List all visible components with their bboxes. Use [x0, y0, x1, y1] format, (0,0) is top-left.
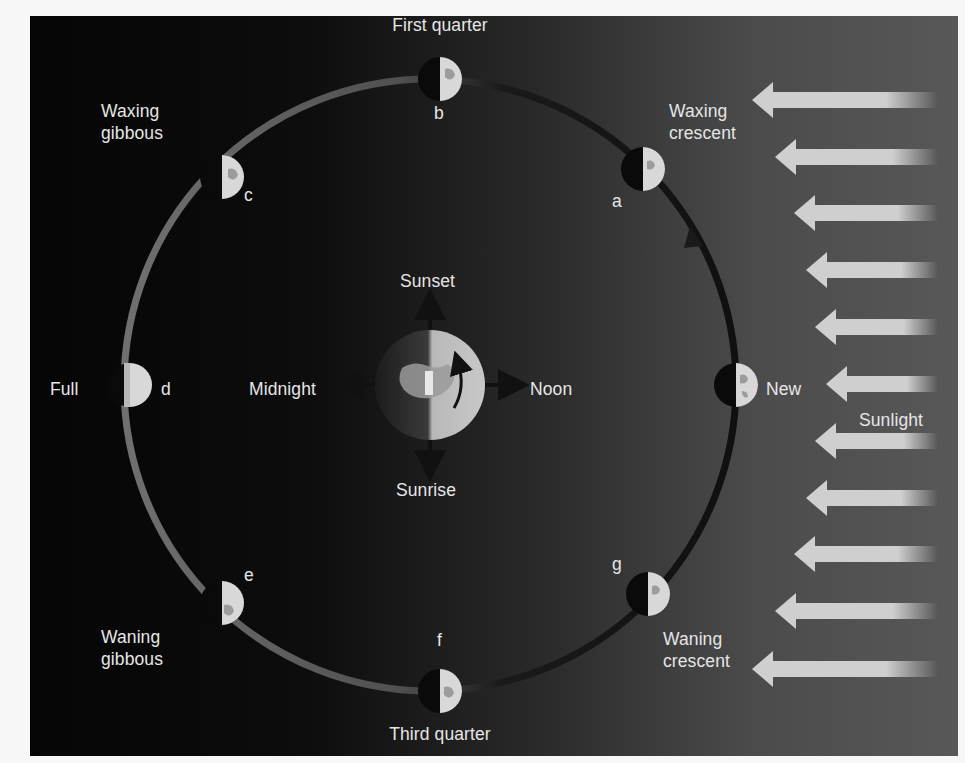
sunlight-arrow-icon — [775, 593, 938, 629]
moon-full-icon — [108, 363, 152, 407]
moon-third-quarter-icon — [418, 669, 462, 713]
sunlight-arrow-icon — [815, 309, 938, 345]
letter-c: c — [244, 184, 253, 206]
label-waning-gibbous: Waning gibbous — [101, 626, 163, 670]
label-full: Full — [50, 378, 79, 400]
label-waning-crescent: Waning crescent — [663, 628, 730, 672]
label-new: New — [766, 378, 801, 400]
label-sunlight: Sunlight — [859, 409, 923, 431]
moon-phases-diagram: First quarter b Waxing gibbous c Waxing … — [30, 16, 958, 756]
label-sunset: Sunset — [400, 270, 455, 292]
sunlight-arrow-icon — [806, 480, 938, 516]
letter-a: a — [612, 190, 622, 212]
label-midnight: Midnight — [249, 378, 316, 400]
sunlight-arrow-icon — [806, 252, 938, 288]
label-first-quarter: First quarter — [360, 16, 520, 36]
moon-waning-crescent-icon — [626, 572, 670, 616]
sunlight-arrow-icon — [752, 651, 938, 687]
moon-new-icon — [714, 363, 758, 407]
sunlight-arrow-icon — [794, 536, 938, 572]
letter-e: e — [244, 564, 254, 586]
moon-waxing-gibbous-icon — [200, 155, 244, 199]
label-noon: Noon — [530, 378, 572, 400]
label-sunrise: Sunrise — [396, 479, 456, 501]
sunlight-arrow-icon — [752, 82, 938, 118]
letter-b: b — [434, 102, 444, 124]
label-waxing-crescent: Waxing crescent — [669, 100, 736, 144]
sunlight-arrow-icon — [826, 366, 938, 402]
letter-g: g — [612, 553, 622, 575]
letter-d: d — [161, 378, 171, 400]
moon-waning-gibbous-icon — [200, 581, 244, 625]
moon-first-quarter-icon — [418, 57, 462, 101]
label-third-quarter: Third quarter — [360, 723, 520, 745]
sunlight-arrow-icon — [794, 195, 938, 231]
earth — [348, 304, 514, 466]
moon-waxing-crescent-icon — [621, 147, 665, 191]
sunlight-arrow-icon — [775, 139, 938, 175]
label-waxing-gibbous: Waxing gibbous — [101, 100, 163, 144]
letter-f: f — [437, 629, 442, 651]
